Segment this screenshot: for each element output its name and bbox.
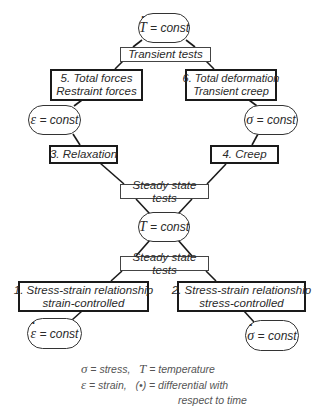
connector-box4-steady (207, 164, 226, 184)
box6-line2: Transient creep (193, 85, 269, 98)
stress-const-node: σ = const (244, 105, 298, 135)
steady-state-text: Steady state tests (121, 179, 208, 205)
t-dot-symbol: T (139, 20, 147, 35)
box-stress-strain-stress-controlled: 2. Stress-strain relationship stress-con… (177, 281, 306, 312)
steady-state-tests-label-lower: Steady state tests (120, 256, 209, 271)
t-symbol: T (139, 219, 147, 234)
steady-state-text: Steady state tests (121, 251, 208, 277)
box5-line1: 5. Total forces (61, 72, 133, 85)
box-total-deformation: 6. Total deformation Transient creep (185, 69, 277, 101)
box2-line2: stress-controlled (199, 297, 283, 310)
box-total-forces: 5. Total forces Restraint forces (50, 69, 143, 101)
box4-label: 4. Creep (222, 148, 266, 161)
legend-definition: = temperature (149, 363, 215, 375)
condition-text: = const (150, 220, 189, 234)
epsilon-symbol: ε (81, 377, 86, 392)
epsilon-symbol: ε (31, 112, 37, 127)
box-creep: 4. Creep (210, 145, 279, 164)
condition-text: = const (257, 113, 296, 127)
sigma-symbol: σ (246, 112, 253, 127)
dot-notation-symbol: (•) (135, 379, 146, 391)
stress-rate-const-node: σ = const (245, 320, 299, 351)
box1-line2: strain-controlled (43, 297, 125, 310)
connector-top-left (133, 40, 142, 47)
sigma-dot-symbol: σ (247, 328, 254, 343)
connector-sigma-box4 (252, 134, 258, 145)
legend-line-3: respect to time (81, 393, 247, 408)
condition-text: = const (258, 329, 297, 343)
legend-definition: = stress, (90, 363, 130, 375)
transient-tests-text: Transient tests (128, 48, 203, 61)
connector-lines (0, 0, 324, 419)
box6-line1: 6. Total deformation (183, 72, 280, 85)
box2-line1: 2. Stress-strain relationship (172, 284, 311, 297)
transient-tests-label: Transient tests (120, 47, 211, 62)
t-symbol: T (139, 361, 146, 376)
strain-rate-const-node: ε = const (27, 318, 82, 349)
connector-transient-box5 (115, 61, 123, 69)
legend-definition: = differential with (149, 379, 228, 391)
connector-eps-box3 (73, 134, 80, 145)
box-stress-strain-strain-controlled: 1. Stress-strain relationship strain-con… (18, 281, 149, 312)
condition-text: = const (39, 113, 78, 127)
legend: σ = stress, T = temperature ε = strain, … (81, 361, 247, 408)
legend-line-2: ε = strain, (•) = differential with (81, 377, 247, 393)
epsilon-dot-symbol: ε (31, 326, 37, 341)
connector-top-right (186, 40, 195, 47)
box3-label: 3. Relaxation (50, 148, 117, 161)
legend-definition: = strain, (89, 379, 127, 391)
strain-const-node: ε = const (28, 105, 81, 135)
box-relaxation: 3. Relaxation (49, 145, 118, 164)
steady-state-tests-label-upper: Steady state tests (120, 184, 209, 199)
connector-box1-epsdot (72, 311, 82, 320)
temperature-const-node: T = const (138, 212, 190, 242)
sigma-symbol: σ (81, 361, 87, 376)
box1-line1: 1. Stress-strain relationship (14, 284, 153, 297)
connector-transient-box6 (206, 61, 214, 69)
condition-text: = const (150, 21, 189, 35)
box5-line2: Restraint forces (56, 85, 137, 98)
legend-line-1: σ = stress, T = temperature (81, 361, 247, 377)
condition-text: = const (39, 327, 78, 341)
top-condition-node: T = const (138, 13, 190, 43)
